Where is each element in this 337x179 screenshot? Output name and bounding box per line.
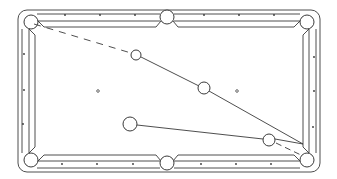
pocket-bottom-right bbox=[300, 153, 314, 167]
foot-spot bbox=[236, 90, 239, 93]
dashed-path-to-top-left-pocket bbox=[34, 24, 131, 53]
cue-ball bbox=[123, 117, 137, 131]
dashed-path-to-bottom-right-pocket bbox=[276, 143, 303, 156]
pocket-top-right bbox=[300, 15, 314, 29]
pocket-bottom-left bbox=[24, 153, 38, 167]
pocket-bottom-center bbox=[160, 156, 174, 170]
billiards-diagram bbox=[0, 0, 337, 179]
line-ghost-to-ball bbox=[141, 57, 199, 86]
ghost-ball bbox=[131, 50, 141, 60]
pocket-top-center bbox=[160, 10, 174, 24]
line-cue-to-object bbox=[137, 125, 263, 139]
table-svg bbox=[0, 0, 337, 179]
shot-paths bbox=[34, 24, 303, 156]
object-ball-2 bbox=[198, 82, 210, 94]
table-outer-frame bbox=[18, 10, 320, 172]
pocket-top-left bbox=[24, 15, 38, 29]
line-ball-to-rail bbox=[209, 91, 303, 144]
object-ball-1 bbox=[263, 134, 275, 146]
head-spot bbox=[97, 90, 100, 93]
